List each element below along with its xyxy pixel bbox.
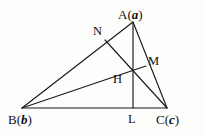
label-A-close-paren: ) — [138, 7, 142, 22]
label-vertex-B: B(b) — [8, 113, 32, 126]
label-vertex-A: A(a) — [118, 8, 143, 21]
label-point-M: M — [148, 55, 159, 68]
geometry-figure: A(a) B(b) C(c) N M H L — [0, 0, 203, 135]
label-C-close-paren: ) — [175, 112, 179, 127]
label-point-L: L — [128, 113, 136, 126]
label-A-letter: A — [118, 7, 127, 22]
label-B-close-paren: ) — [28, 112, 32, 127]
label-point-N: N — [93, 25, 102, 38]
label-C-letter: C — [156, 112, 165, 127]
label-point-H: H — [113, 73, 122, 86]
segment-side-AB — [22, 22, 133, 108]
segment-altitude-BM — [22, 66, 146, 108]
label-vertex-C: C(c) — [156, 113, 179, 126]
label-B-letter: B — [8, 112, 17, 127]
